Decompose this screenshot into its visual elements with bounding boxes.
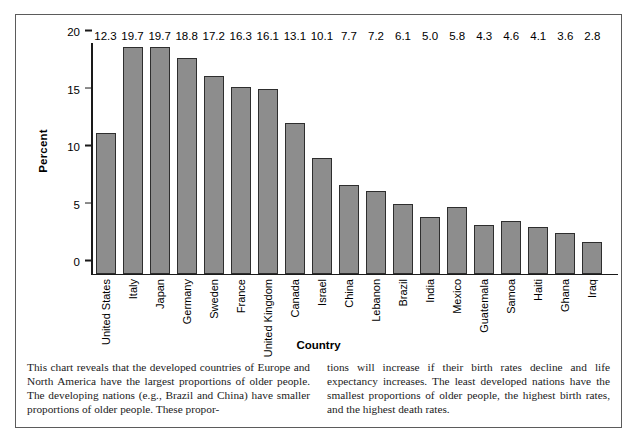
- bar[interactable]: [501, 221, 521, 274]
- bar-slot[interactable]: 18.8: [173, 44, 200, 274]
- bar-value-label: 2.8: [584, 30, 600, 42]
- x-axis-tick-label: Samoa: [505, 279, 517, 314]
- bar-slot[interactable]: 10.1: [308, 44, 335, 274]
- x-axis-tick-slot: Brazil: [390, 277, 417, 347]
- bar-slot[interactable]: 5.8: [444, 44, 471, 274]
- bar[interactable]: [447, 207, 467, 274]
- x-axis-tick-label: Canada: [289, 279, 301, 318]
- x-axis-tick-slot: China: [335, 277, 362, 347]
- bar[interactable]: [366, 191, 386, 274]
- y-axis-tick: 5: [58, 197, 92, 210]
- y-axis-tick-mark: [85, 145, 92, 147]
- bar[interactable]: [582, 242, 602, 274]
- bar-value-label: 16.3: [230, 30, 252, 42]
- y-axis-tick: 0: [58, 255, 92, 268]
- bar-slot[interactable]: 17.2: [200, 44, 227, 274]
- bar[interactable]: [474, 225, 494, 274]
- y-axis-tick-label: 5: [58, 198, 80, 210]
- x-axis-tick-slot: Guatemala: [471, 277, 498, 347]
- bar-slot[interactable]: 2.8: [579, 44, 606, 274]
- bar[interactable]: [258, 89, 278, 274]
- x-axis-tick-slot: Germany: [173, 277, 200, 347]
- bar-value-label: 7.2: [368, 30, 384, 42]
- x-axis-tick-slot: France: [227, 277, 254, 347]
- y-axis-tick-mark: [85, 202, 92, 204]
- bar-slot[interactable]: 16.3: [227, 44, 254, 274]
- bar[interactable]: [123, 47, 143, 274]
- x-axis-tick-label: Ghana: [559, 279, 571, 312]
- bar[interactable]: [393, 204, 413, 274]
- x-axis-tick-label: Lebanon: [370, 279, 382, 322]
- x-axis-tick-slot: Samoa: [498, 277, 525, 347]
- x-axis-tick-slot: Ghana: [552, 277, 579, 347]
- bar-value-label: 17.2: [203, 30, 225, 42]
- bar[interactable]: [150, 47, 170, 274]
- x-axis-tick-label: Mexico: [451, 279, 463, 314]
- bar-value-label: 10.1: [311, 30, 333, 42]
- y-axis-tick-label: 15: [58, 83, 80, 95]
- bar-series: 12.319.719.718.817.216.316.113.110.17.77…: [92, 44, 606, 274]
- bar-value-label: 12.3: [94, 30, 116, 42]
- caption-column-left: This chart reveals that the developed co…: [27, 360, 310, 416]
- bar[interactable]: [285, 123, 305, 274]
- x-axis-tick-label: Germany: [181, 279, 193, 324]
- bar-slot[interactable]: 7.2: [362, 44, 389, 274]
- x-axis-tick-slot: Lebanon: [362, 277, 389, 347]
- bar-slot[interactable]: 3.6: [552, 44, 579, 274]
- bar-slot[interactable]: 4.3: [471, 44, 498, 274]
- bar[interactable]: [231, 87, 251, 274]
- bar-chart: Percent 05101520 12.319.719.718.817.216.…: [16, 15, 621, 355]
- bar-slot[interactable]: 16.1: [254, 44, 281, 274]
- x-axis-tick-labels: United StatesItalyJapanGermanySwedenFran…: [92, 277, 606, 347]
- figure-frame: Percent 05101520 12.319.719.718.817.216.…: [15, 14, 622, 428]
- bar-value-label: 18.8: [175, 30, 197, 42]
- x-axis-tick-label: Japan: [154, 279, 166, 309]
- x-axis-tick-label: Italy: [127, 279, 139, 299]
- x-axis-tick-label: United States: [100, 279, 112, 345]
- bar-value-label: 7.7: [341, 30, 357, 42]
- bar[interactable]: [339, 185, 359, 274]
- bar-slot[interactable]: 4.6: [498, 44, 525, 274]
- y-axis-tick-label: 0: [58, 256, 80, 268]
- y-axis-tick-label: 10: [58, 141, 80, 153]
- x-axis-tick-slot: Iraq: [579, 277, 606, 347]
- x-axis-tick-slot: India: [417, 277, 444, 347]
- bar-value-label: 4.1: [530, 30, 546, 42]
- x-axis-tick-slot: Italy: [119, 277, 146, 347]
- bar[interactable]: [555, 233, 575, 274]
- bar-slot[interactable]: 12.3: [92, 44, 119, 274]
- bar-value-label: 16.1: [257, 30, 279, 42]
- x-axis-title: Country: [16, 339, 621, 351]
- bar-value-label: 4.6: [503, 30, 519, 42]
- bar-slot[interactable]: 5.0: [417, 44, 444, 274]
- bar-slot[interactable]: 6.1: [390, 44, 417, 274]
- y-axis-tick: 20: [58, 25, 92, 38]
- bar-slot[interactable]: 19.7: [146, 44, 173, 274]
- bar[interactable]: [528, 227, 548, 274]
- x-axis-tick-label: Iraq: [586, 279, 598, 298]
- bar-slot[interactable]: 13.1: [281, 44, 308, 274]
- bar[interactable]: [96, 133, 116, 274]
- plot-area: 05101520 12.319.719.718.817.216.316.113.…: [92, 44, 606, 274]
- caption-column-right: tions will increase if their birth rates…: [327, 360, 610, 416]
- bar[interactable]: [177, 58, 197, 274]
- bar-value-label: 6.1: [395, 30, 411, 42]
- bar-slot[interactable]: 19.7: [119, 44, 146, 274]
- x-axis-tick-label: China: [343, 279, 355, 308]
- x-axis-tick-slot: Haiti: [525, 277, 552, 347]
- y-axis-title: Percent: [37, 106, 49, 196]
- bar[interactable]: [204, 76, 224, 274]
- bar-value-label: 5.0: [422, 30, 438, 42]
- bar-slot[interactable]: 7.7: [335, 44, 362, 274]
- x-axis-tick-label: Haiti: [532, 279, 544, 301]
- bar[interactable]: [420, 217, 440, 275]
- bar-slot[interactable]: 4.1: [525, 44, 552, 274]
- bar-value-label: 13.1: [284, 30, 306, 42]
- x-axis-tick-slot: United Kingdom: [254, 277, 281, 347]
- y-axis-tick-mark: [85, 87, 92, 89]
- x-axis-tick-label: Israel: [316, 279, 328, 306]
- x-axis-tick-slot: United States: [92, 277, 119, 347]
- y-axis-tick-mark: [85, 260, 92, 262]
- bar-value-label: 4.3: [476, 30, 492, 42]
- bar[interactable]: [312, 158, 332, 274]
